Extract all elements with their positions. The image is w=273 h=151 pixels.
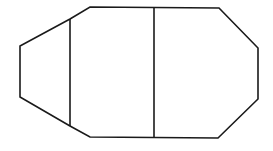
polygon-diagram (0, 0, 273, 151)
background (0, 0, 273, 151)
